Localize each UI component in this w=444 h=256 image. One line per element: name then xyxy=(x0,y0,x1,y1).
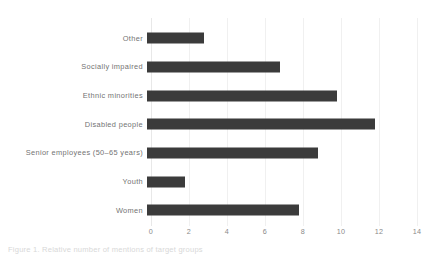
x-tick-label: 2 xyxy=(187,228,191,235)
bar[interactable] xyxy=(147,176,185,187)
figure-caption-text: Figure 1. Relative number of mentions of… xyxy=(8,246,444,254)
x-tick-label: 12 xyxy=(375,228,384,235)
bar-track xyxy=(147,196,444,225)
category-label: Socially impaired xyxy=(0,63,147,70)
figure-bar-chart: OtherSocially impairedEthnic minoritiesD… xyxy=(0,0,444,256)
bar-row: Other xyxy=(0,24,444,53)
x-tick-label: 4 xyxy=(225,228,229,235)
figure-caption: Figure 1. Relative number of mentions of… xyxy=(8,246,444,256)
x-tick-label: 14 xyxy=(413,228,422,235)
x-tick-label: 6 xyxy=(263,228,267,235)
bar-row: Senior employees (50–65 years) xyxy=(0,139,444,168)
bar[interactable] xyxy=(147,62,280,73)
bar[interactable] xyxy=(147,90,337,101)
bar[interactable] xyxy=(147,148,318,159)
bar[interactable] xyxy=(147,205,299,216)
category-label: Senior employees (50–65 years) xyxy=(0,149,147,156)
category-label: Youth xyxy=(0,178,147,185)
bar-track xyxy=(147,139,444,168)
category-label: Disabled people xyxy=(0,121,147,128)
bar-row: Women xyxy=(0,196,444,225)
x-axis: 02468101214 xyxy=(151,226,417,242)
chart-plot-area: OtherSocially impairedEthnic minoritiesD… xyxy=(0,0,444,232)
category-label: Ethnic minorities xyxy=(0,92,147,99)
category-label: Other xyxy=(0,35,147,42)
bar-track xyxy=(147,167,444,196)
x-tick-label: 10 xyxy=(337,228,346,235)
category-label: Women xyxy=(0,207,147,214)
bar-row: Youth xyxy=(0,167,444,196)
bar-track xyxy=(147,53,444,82)
bar[interactable] xyxy=(147,33,204,44)
x-tick-label: 0 xyxy=(149,228,153,235)
bar-rows: OtherSocially impairedEthnic minoritiesD… xyxy=(0,24,444,225)
bar-row: Disabled people xyxy=(0,110,444,139)
bar-track xyxy=(147,24,444,53)
bar-track xyxy=(147,110,444,139)
bar-track xyxy=(147,81,444,110)
bar[interactable] xyxy=(147,119,375,130)
bar-row: Ethnic minorities xyxy=(0,81,444,110)
x-tick-label: 8 xyxy=(301,228,305,235)
bar-row: Socially impaired xyxy=(0,53,444,82)
